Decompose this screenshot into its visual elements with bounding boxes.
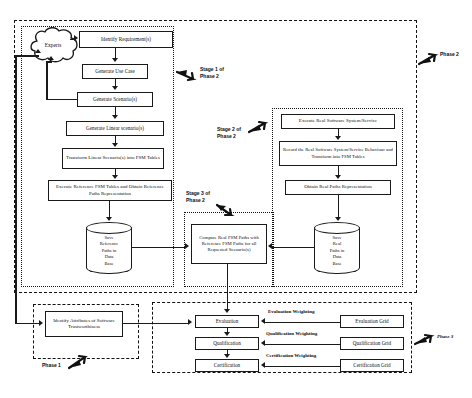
arrow-global-feedback-to-attributes (39, 320, 43, 326)
arrow-usecase-to-scenarios (112, 86, 118, 90)
cylinder-save-real-paths: Save Real Paths in Data Base (314, 222, 360, 274)
arrow-identify-to-usecase (112, 58, 118, 62)
pointer-stage2 (248, 120, 270, 138)
arrow-execute-to-cylinder (106, 217, 112, 221)
edge-qualgrid-to-qualification (265, 344, 340, 346)
label-certification-weighting: Certification Weighting (266, 353, 316, 358)
arrow-linear-to-transform (112, 143, 118, 147)
save-reference-line-5: Base (105, 261, 114, 268)
box-certification[interactable]: Certification (195, 359, 259, 372)
process-flow-diagram: Experts Identify Requirement(s) Generate… (0, 0, 472, 398)
arrow-scenarios-to-linear (112, 115, 118, 119)
box-generate-use-case[interactable]: Generate Use Case (82, 64, 148, 79)
box-qualification[interactable]: Qualification (195, 337, 259, 350)
edge-global-feedback-top (15, 55, 39, 57)
arrow-evaluation-to-qualification (224, 332, 230, 336)
arrow-transform-to-execute (112, 175, 118, 179)
pointer-stage1 (176, 68, 198, 86)
annotation-phase1: Phase 1 (42, 362, 61, 369)
box-compare-paths[interactable]: Compare Real FSM Paths with Reference FS… (191, 224, 267, 264)
edge-global-feedback-v (15, 55, 17, 323)
arrow-qualgrid-to-qualification (261, 340, 265, 346)
box-identify-requirements[interactable]: Identify Requirement(s) (79, 31, 173, 48)
arrow-refcyl-to-compare (185, 243, 189, 249)
box-qualification-grid[interactable]: Qualification Grid (340, 337, 404, 350)
edge-scenarios-feedback-h (46, 99, 78, 101)
box-generate-linear-scenarios[interactable]: Generate Linear scenario(s) (66, 121, 164, 136)
annotation-phase2: Phase 2 (440, 51, 459, 58)
save-real-line-5: Base (333, 261, 342, 268)
edge-scenarios-feedback-top (46, 61, 52, 63)
pointer-stage3 (215, 203, 235, 221)
edge-attributes-to-evaluation (123, 323, 189, 325)
edge-execute-to-cylinder (109, 201, 111, 218)
edge-realcyl-to-compare (272, 247, 314, 249)
edge-refcyl-to-compare (132, 247, 186, 249)
box-transform-linear-scenarios[interactable]: Transform Linear Scenario(s) into FSM Ta… (62, 148, 164, 169)
box-evaluation-grid[interactable]: Evaluation Grid (340, 315, 404, 328)
annotation-phase3: Phase 3 (437, 334, 453, 341)
label-evaluation-weighting: Evaluation Weighting (268, 309, 314, 314)
pointer-phase1 (68, 354, 90, 374)
edge-compare-to-evaluation (227, 264, 229, 310)
arrow-realcyl-to-compare (268, 243, 272, 249)
arrow-compare-to-evaluation (224, 309, 230, 313)
edge-certgrid-to-certification (265, 366, 340, 368)
edge-evalgrid-to-evaluation (265, 322, 340, 324)
arrow-record-to-obtain (335, 175, 341, 179)
box-obtain-real-paths[interactable]: Obtain Real Paths Representation (285, 180, 391, 195)
cylinder-save-reference-paths: Save Reference Paths in Data Base (86, 222, 132, 274)
edge-global-feedback-bottom (15, 323, 40, 325)
box-record-real-software[interactable]: Record the Real Software System/Service … (279, 141, 397, 166)
box-execute-reference-fsm[interactable]: Execute Reference FSM Tables and Obtain … (48, 180, 172, 201)
arrow-qualification-to-certification (224, 354, 230, 358)
label-qualification-weighting: Qualification Weighting (266, 331, 317, 336)
arrow-attributes-to-evaluation (188, 319, 192, 325)
arrow-feedback-to-experts (48, 56, 54, 60)
edge-obtain-to-realcylinder (338, 195, 340, 218)
annotation-stage1: Stage 1 of Phase 2 (200, 66, 224, 79)
pointer-phase2 (418, 52, 440, 70)
arrow-obtain-to-realcylinder (335, 217, 341, 221)
experts-label: Experts (24, 42, 82, 48)
arrow-evalgrid-to-evaluation (261, 318, 265, 324)
box-execute-real-software[interactable]: Execute Real Software System/Service (281, 114, 395, 129)
annotation-stage2: Stage 2 of Phase 2 (217, 126, 241, 139)
arrow-global-feedback-to-experts (35, 49, 41, 53)
annotation-stage3: Stage 3 of Phase 2 (186, 190, 210, 203)
box-identify-attributes[interactable]: Identify Attributes of Software Trustwor… (45, 311, 123, 337)
edge-scenarios-feedback-v (46, 62, 48, 100)
box-evaluation[interactable]: Evaluation (195, 315, 259, 328)
box-generate-scenarios[interactable]: Generate Scenario(s) (77, 92, 153, 107)
arrow-experts-to-identify (74, 35, 78, 41)
pointer-phase3 (414, 333, 436, 351)
arrow-certgrid-to-certification (261, 362, 265, 368)
arrow-executereal-to-record (335, 136, 341, 140)
box-certification-grid[interactable]: Certification Grid (340, 359, 404, 372)
